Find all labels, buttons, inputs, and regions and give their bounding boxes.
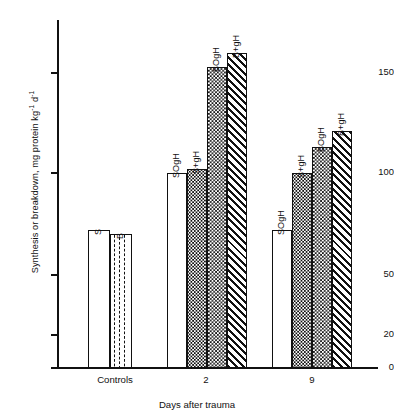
bar-controls-S bbox=[88, 230, 110, 368]
bar-9-BOgH bbox=[312, 147, 332, 368]
bar-2-BOgH bbox=[207, 67, 227, 368]
bar-label-2-B+gH: B+gH bbox=[231, 35, 241, 58]
x-tick-label-day2: 2 bbox=[166, 374, 246, 385]
bar-label-9-B+gH: B+gH bbox=[336, 113, 346, 136]
bar-chart-figure: Synthesis or breakdown, mg protein kg-1 … bbox=[0, 0, 394, 418]
bar-9-S+gH bbox=[292, 173, 312, 368]
bar-label-9-BOgH: BOgH bbox=[316, 127, 326, 152]
y-axis-title-main: Synthesis or breakdown, mg protein kg bbox=[30, 111, 40, 274]
bar-2-B+gH bbox=[227, 53, 247, 368]
y-tick-0 bbox=[51, 367, 58, 369]
x-axis-title: Days after trauma bbox=[0, 399, 394, 410]
bar-2-S+gH bbox=[187, 169, 207, 368]
y-tick-label-100: 100 bbox=[348, 166, 394, 177]
y-axis-title: Synthesis or breakdown, mg protein kg-1 … bbox=[28, 52, 40, 312]
y-tick-label-50: 50 bbox=[348, 268, 394, 279]
y-tick-label-150: 150 bbox=[348, 66, 394, 77]
y-tick-100 bbox=[51, 172, 58, 174]
bar-label-2-BOgH: BOgH bbox=[211, 47, 221, 72]
y-axis-title-mid: d bbox=[30, 97, 40, 105]
bar-label-2-S+gH: S+gH bbox=[191, 151, 201, 174]
y-tick-label-0: 0 bbox=[348, 361, 394, 372]
bar-label-9-S+gH: S+gH bbox=[296, 155, 306, 178]
y-tick-label-20: 20 bbox=[348, 328, 394, 339]
bar-controls-B bbox=[110, 234, 132, 368]
bar-label-2-SOgH: SOgH bbox=[171, 153, 181, 178]
y-axis-title-sup1: -1 bbox=[28, 105, 35, 111]
bar-9-SOgH bbox=[272, 230, 292, 368]
bar-9-B+gH bbox=[332, 131, 352, 368]
bar-label-9-SOgH: SOgH bbox=[276, 210, 286, 235]
x-tick-label-controls: Controls bbox=[70, 374, 160, 385]
y-axis-title-sup2: -1 bbox=[28, 91, 35, 97]
bar-label-controls-B: B bbox=[115, 233, 125, 239]
y-tick-50 bbox=[51, 274, 58, 276]
x-tick-label-day9: 9 bbox=[272, 374, 352, 385]
bar-2-SOgH bbox=[167, 173, 187, 368]
y-tick-20 bbox=[51, 334, 58, 336]
bar-label-controls-S: S bbox=[93, 229, 103, 235]
y-tick-150 bbox=[51, 72, 58, 74]
